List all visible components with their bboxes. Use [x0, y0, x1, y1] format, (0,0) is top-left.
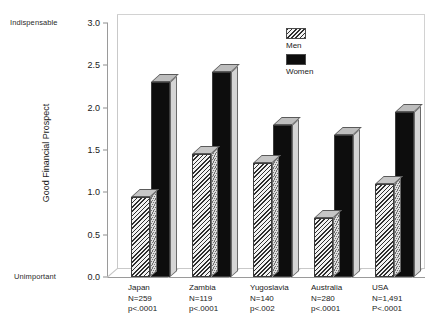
- plot-frame-right: [424, 14, 425, 268]
- bar-yugoslavia-men: [253, 163, 272, 277]
- legend-label-women: Women: [286, 66, 313, 77]
- bar-side-face: [231, 66, 238, 277]
- category-block-japan: JapanN=259p<.0001: [128, 283, 157, 315]
- y-axis-title: Good Financial Prospect: [41, 63, 51, 243]
- y-tick-label: 3.0: [74, 18, 100, 28]
- bar-side-face: [333, 212, 340, 277]
- y-tick-label: 1.5: [74, 145, 100, 155]
- plot-frame-top: [117, 14, 425, 15]
- legend-swatch-women-icon: [286, 54, 306, 65]
- category-p-value: P<.0001: [372, 304, 402, 315]
- y-tick-label: 2.5: [74, 60, 100, 70]
- y-tick-label: 1.0: [74, 187, 100, 197]
- bar-zambia-men: [192, 154, 211, 277]
- category-block-australia: AustraliaN=280p<.0001: [311, 283, 342, 315]
- bar-japan-men: [131, 197, 150, 277]
- category-sample-size: N=280: [311, 294, 342, 305]
- x-axis-baseline: [107, 277, 425, 278]
- bar-side-face: [272, 157, 279, 277]
- category-name: Zambia: [189, 283, 218, 294]
- bar-front-face: [131, 197, 150, 277]
- bar-front-face: [253, 163, 272, 277]
- category-block-zambia: ZambiaN=119p<.0001: [189, 283, 218, 315]
- legend-label-men: Men: [286, 40, 313, 51]
- y-axis-line-back: [117, 14, 118, 268]
- bar-australia-men: [314, 218, 333, 277]
- legend-entry-men: Men: [286, 28, 313, 51]
- bar-side-face: [292, 119, 299, 277]
- bar-front-face: [375, 184, 394, 277]
- axis-anchor-high-label: Indispensable: [10, 18, 58, 27]
- category-sample-size: N=119: [189, 294, 218, 305]
- bar-side-face: [414, 106, 421, 277]
- legend-swatch-men-icon: [286, 28, 306, 39]
- category-name: Australia: [311, 283, 342, 294]
- legend-entry-women: Women: [286, 54, 313, 77]
- bar-side-face: [211, 148, 218, 277]
- category-name: Japan: [128, 283, 157, 294]
- category-sample-size: N=1,491: [372, 294, 402, 305]
- category-sample-size: N=140: [250, 294, 289, 305]
- bar-side-face: [150, 190, 157, 277]
- y-axis-line: [107, 23, 108, 277]
- category-name: USA: [372, 283, 402, 294]
- category-p-value: p<.0001: [128, 304, 157, 315]
- category-p-value: p<.0001: [189, 304, 218, 315]
- category-p-value: p<.002: [250, 304, 289, 315]
- y-tick-label: 0.5: [74, 230, 100, 240]
- category-p-value: p<.0001: [311, 304, 342, 315]
- category-name: Yugoslavia: [250, 283, 289, 294]
- y-tick-label: 2.0: [74, 103, 100, 113]
- chart-container: Indispensable Unimportant Good Financial…: [0, 0, 433, 321]
- bar-side-face: [353, 129, 360, 277]
- bar-front-face: [192, 154, 211, 277]
- bar-side-face: [170, 76, 177, 277]
- y-tick-label: 0.0: [74, 272, 100, 282]
- category-block-usa: USAN=1,491P<.0001: [372, 283, 402, 315]
- bar-usa-men: [375, 184, 394, 277]
- category-sample-size: N=259: [128, 294, 157, 305]
- category-block-yugoslavia: YugoslaviaN=140p<.002: [250, 283, 289, 315]
- bar-front-face: [314, 218, 333, 277]
- axis-anchor-low-label: Unimportant: [14, 272, 56, 281]
- chart-legend: Men Women: [286, 28, 313, 80]
- bar-side-face: [394, 178, 401, 277]
